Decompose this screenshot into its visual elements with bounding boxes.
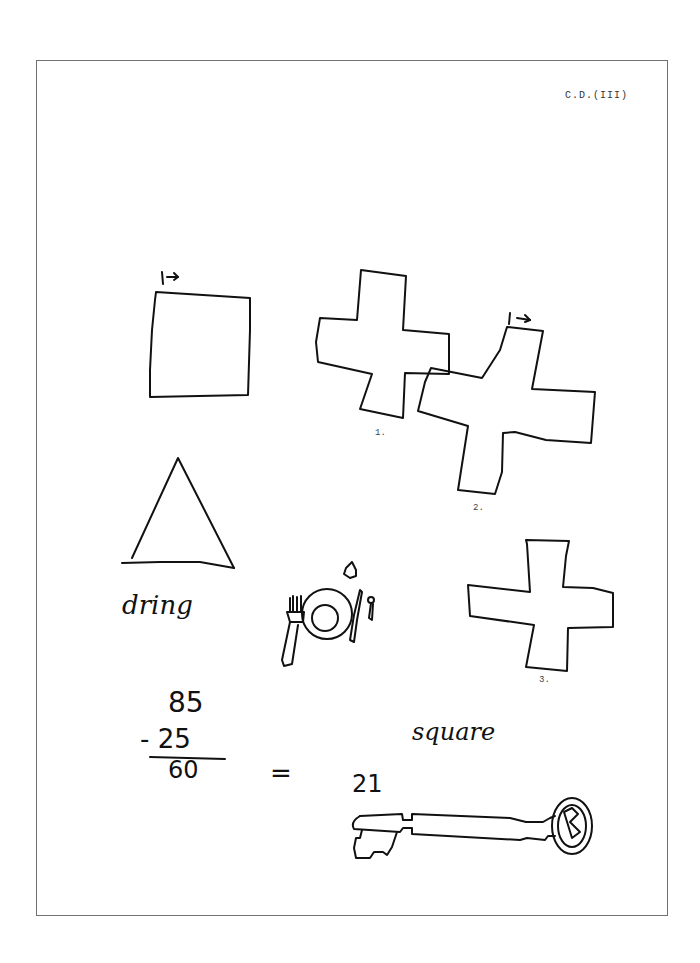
triangle-base (122, 562, 234, 568)
key-number: 21 (352, 770, 383, 798)
square-drawing (150, 292, 250, 397)
plate-drawing (302, 589, 352, 639)
glass-drawing (344, 562, 356, 578)
cross-1-drawing (316, 270, 449, 418)
start-marker-cross-2 (509, 313, 530, 324)
fork-drawing (282, 596, 304, 666)
cross-2-drawing (418, 327, 595, 494)
spoon-drawing (368, 597, 374, 620)
triangle-caption: dring (122, 590, 193, 620)
cross-3-drawing (468, 540, 613, 671)
figure-label-3: 3. (539, 675, 550, 685)
arithmetic-equals: = (270, 758, 292, 788)
square-word: square (412, 718, 495, 746)
start-marker-square (162, 272, 178, 284)
arithmetic-result: 60 (168, 756, 199, 784)
figure-label-1: 1. (375, 428, 386, 438)
drawings-canvas (0, 0, 700, 963)
triangle-drawing (132, 458, 234, 568)
key-drawing (353, 798, 592, 858)
arithmetic-subtrahend: - 25 (140, 724, 191, 754)
figure-label-2: 2. (473, 503, 484, 513)
arithmetic-minuend: 85 (168, 686, 204, 719)
